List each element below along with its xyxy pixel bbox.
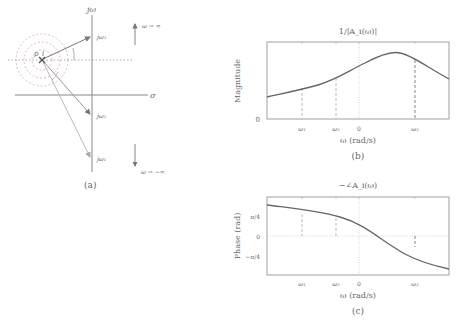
- xtick-w3: ω₃: [411, 125, 419, 132]
- magnitude-ytick-0: 0: [256, 116, 260, 124]
- phase-curve: [267, 205, 449, 269]
- vector-to-jw2: [44, 62, 90, 114]
- phase-xtick-w1: ω₁: [298, 280, 305, 287]
- xtick-w2: ω₂: [332, 125, 340, 132]
- phase-title: −∠A_i(ω): [339, 181, 378, 190]
- magnitude-ylabel: Magnitude: [233, 59, 242, 103]
- angle-arc-jw3: [73, 48, 74, 60]
- xtick-0: 0: [357, 125, 361, 132]
- jw1-label: jω₁: [95, 155, 106, 163]
- magnitude-xlabel: ω (rad/s): [340, 136, 376, 145]
- phase-ylabel: Phase (rad): [233, 213, 242, 260]
- pole-label: p_i: [34, 50, 44, 58]
- jw3-label: jω₃: [95, 33, 107, 41]
- panel-b-magnitude: 1/|A_i(ω)| 0 ω₁ ω₂ 0 ω₃ ω (rad/s) Magnit…: [233, 27, 449, 161]
- vector-to-jw3: [43, 37, 90, 59]
- arrow-down-label: ω → −∞: [141, 168, 165, 175]
- phase-xlabel: ω (rad/s): [340, 291, 376, 300]
- imag-axis-label: jω: [85, 5, 96, 14]
- magnitude-curve: [267, 52, 449, 97]
- jw2-label: jω₂: [95, 112, 107, 120]
- vector-to-jw1: [43, 62, 90, 157]
- arrow-up-label: ω → ∞: [142, 22, 161, 29]
- panel-a-caption: (a): [84, 180, 96, 190]
- phase-ytick-neg-pi4: −π/4: [245, 253, 260, 260]
- phase-xtick-w2: ω₂: [332, 280, 340, 287]
- panel-c-caption: (c): [352, 306, 364, 316]
- figure: p_i jω σ jω₃ jω₂ jω₁ ω → ∞ ω → −∞ (a) 1/…: [0, 0, 458, 323]
- panel-a-splane: p_i jω σ jω₃ jω₂ jω₁ ω → ∞ ω → −∞ (a): [8, 5, 165, 190]
- real-axis-label: σ: [150, 91, 156, 100]
- angle-arc-jw1: [52, 72, 58, 80]
- phase-xtick-0: 0: [357, 280, 361, 287]
- phase-xtick-w3: ω₃: [411, 280, 419, 287]
- xtick-w1: ω₁: [298, 125, 305, 132]
- magnitude-title: 1/|A_i(ω)|: [339, 27, 377, 36]
- panel-b-caption: (b): [352, 151, 365, 161]
- panel-c-phase: −∠A_i(ω) π/4 0 −π/4 ω₁ ω₂ 0 ω₃ ω (rad/s)…: [233, 181, 449, 316]
- phase-ytick-0: 0: [256, 233, 260, 240]
- magnitude-plot-frame: [267, 42, 449, 119]
- phase-ytick-pi4: π/4: [250, 213, 260, 220]
